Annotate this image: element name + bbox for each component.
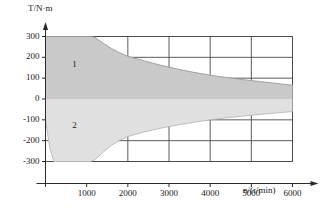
y-tick-label-200: 200 xyxy=(14,51,40,61)
region-label-1: 1 xyxy=(72,59,77,69)
y-tick-label--300: -300 xyxy=(14,156,40,166)
x-tick-label-5000: 5000 xyxy=(231,188,271,198)
x-tick-label-3000: 3000 xyxy=(149,188,189,198)
x-tick-label-2000: 2000 xyxy=(108,188,148,198)
y-tick-label-100: 100 xyxy=(14,72,40,82)
x-axis-arrow-icon xyxy=(311,181,319,186)
y-axis-ticks xyxy=(42,37,46,162)
y-tick-label--200: -200 xyxy=(14,135,40,145)
y-tick-label-0: 0 xyxy=(14,93,40,103)
y-axis-arrow-icon xyxy=(43,22,48,30)
chart-canvas xyxy=(0,0,326,208)
torque-speed-envelope-chart: T/N·m n/(r/min) 3002001000-100-200-300 1… xyxy=(0,0,326,208)
x-tick-label-6000: 6000 xyxy=(273,188,313,198)
y-axis-label: T/N·m xyxy=(28,3,53,13)
x-tick-label-4000: 4000 xyxy=(190,188,230,198)
x-tick-label-1000: 1000 xyxy=(67,188,107,198)
y-tick-label--100: -100 xyxy=(14,114,40,124)
region-label-2: 2 xyxy=(72,120,77,130)
y-tick-label-300: 300 xyxy=(14,31,40,41)
